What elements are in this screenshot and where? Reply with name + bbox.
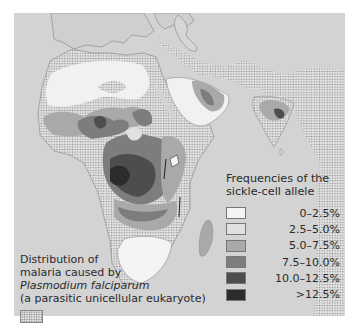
legend-label: 7.5–10.0% [246,256,340,269]
malaria-legend-species: Plasmodium falciparum [20,279,230,292]
legend-item: 0–2.5% [226,205,346,221]
legend-swatch [226,240,246,252]
legend-swatch [226,223,246,235]
madagascar [199,220,213,256]
europe-landmass [51,13,197,51]
malaria-legend: Distribution of malaria caused by Plasmo… [20,253,230,323]
frequency-legend-title: Frequencies of the sickle-cell allele [226,172,346,198]
legend-item: 2.5–5.0% [226,221,346,237]
malaria-stipple-swatch [20,310,43,323]
legend-label: 10.0–12.5% [246,272,340,285]
malaria-legend-line: Distribution of [20,253,230,266]
legend-title-line: Frequencies of the [226,172,346,185]
legend-item: >12.5% [226,286,346,302]
frequency-legend: Frequencies of the sickle-cell allele 0–… [226,172,346,303]
legend-item: 7.5–10.0% [226,254,346,270]
malaria-legend-text: Distribution of malaria caused by Plasmo… [20,253,230,305]
malaria-legend-line: (a parasitic unicellular eukaryote) [20,292,230,305]
legend-swatch [226,207,246,219]
legend-item: 10.0–12.5% [226,270,346,286]
legend-label: 0–2.5% [246,207,340,220]
legend-title-line: sickle-cell allele [226,185,346,198]
legend-label: 2.5–5.0% [246,223,340,236]
legend-item: 5.0–7.5% [226,238,346,254]
malaria-legend-line: malaria caused by [20,266,230,279]
legend-label: >12.5% [246,288,340,301]
legend-label: 5.0–7.5% [246,239,340,252]
